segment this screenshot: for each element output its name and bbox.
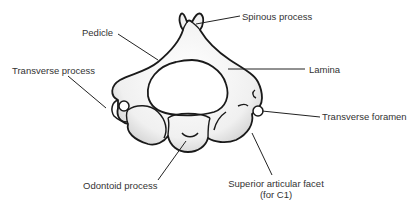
label-superior-articular-facet-line2: (for C1): [226, 189, 326, 200]
leader-transverse-foramen: [262, 111, 320, 117]
label-superior-articular-facet-line1: Superior articular facet: [226, 178, 326, 189]
diagram-canvas: Spinous process Pedicle Lamina Transvers…: [0, 0, 419, 208]
leader-superior-articular-facet: [252, 133, 272, 175]
leader-transverse-process: [68, 76, 106, 108]
left-transverse-foramen: [119, 101, 129, 111]
label-pedicle: Pedicle: [82, 27, 113, 38]
vertebral-foramen: [148, 60, 228, 115]
label-spinous-process: Spinous process: [242, 11, 312, 22]
label-odontoid-process: Odontoid process: [83, 180, 157, 191]
label-transverse-foramen: Transverse foramen: [322, 111, 407, 122]
label-lamina: Lamina: [309, 64, 340, 75]
vertebra-illustration: [0, 0, 419, 208]
label-superior-articular-facet: Superior articular facet (for C1): [226, 178, 326, 200]
leader-pedicle: [118, 34, 158, 60]
label-transverse-process: Transverse process: [12, 65, 95, 76]
leader-odontoid-process: [158, 141, 186, 180]
right-transverse-foramen: [253, 106, 263, 116]
